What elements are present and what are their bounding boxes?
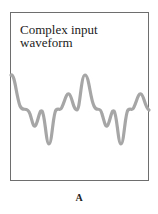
complex-waveform [0,0,158,214]
panel-label: A [0,192,158,203]
